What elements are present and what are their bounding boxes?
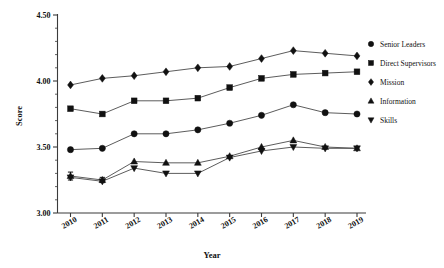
y-axis-title: Score (14, 106, 24, 126)
data-point-marker (99, 74, 105, 82)
y-tick-label: 3.00 (37, 209, 51, 218)
legend-label: Senior Leaders (380, 40, 425, 49)
x-tick-label: 2016 (251, 215, 269, 231)
data-point-marker (163, 68, 169, 76)
chart-figure: 3.003.504.004.50 20102011201220132014201… (0, 0, 444, 268)
data-point-marker (163, 98, 169, 104)
x-tick-label: 2011 (92, 215, 110, 231)
data-point-marker (67, 147, 73, 153)
legend-label: Direct Supervisors (380, 59, 436, 68)
x-axis-title: Year (204, 250, 221, 260)
x-tick-label: 2013 (156, 215, 174, 231)
data-point-marker (354, 111, 360, 117)
line-chart: 3.003.504.004.50 20102011201220132014201… (0, 0, 444, 268)
legend-label: Skills (380, 116, 397, 125)
x-tick-label: 2018 (315, 215, 333, 231)
data-point-marker (68, 81, 74, 89)
data-point-marker (290, 47, 296, 55)
data-point-marker (68, 106, 74, 112)
series-line (71, 140, 358, 180)
legend-marker-circle (368, 41, 373, 46)
data-point-marker (163, 131, 169, 137)
legend-marker-triangle-down (368, 118, 374, 123)
y-axis-tick-labels: 3.003.504.004.50 (37, 11, 51, 218)
data-point-marker (99, 111, 105, 117)
legend-marker-square (369, 61, 374, 66)
legend-label: Mission (380, 78, 404, 87)
data-point-marker (195, 127, 201, 133)
series-lines (71, 51, 358, 182)
x-tick-label: 2015 (219, 215, 237, 231)
data-point-marker (354, 69, 360, 75)
data-point-marker (290, 102, 296, 108)
data-point-marker (195, 95, 201, 101)
data-point-marker (259, 76, 265, 82)
series-line (71, 147, 358, 181)
data-point-marker (195, 64, 201, 72)
data-point-marker (131, 98, 137, 104)
x-tick-label: 2019 (347, 215, 365, 231)
x-tick-label: 2012 (124, 215, 142, 231)
data-point-marker (354, 52, 360, 60)
data-point-marker (194, 171, 201, 177)
data-point-marker (227, 120, 233, 126)
legend-marker-triangle-up (368, 98, 374, 103)
data-point-marker (99, 145, 105, 151)
data-point-marker (131, 158, 138, 164)
y-axis-ticks (53, 15, 58, 213)
x-axis-ticks (71, 213, 358, 217)
x-tick-label: 2017 (283, 215, 301, 231)
data-point-marker (163, 171, 170, 177)
data-point-marker (259, 55, 265, 63)
series-line (71, 105, 358, 150)
x-tick-label: 2014 (187, 215, 205, 231)
legend-label: Information (380, 97, 416, 106)
y-tick-label: 3.50 (37, 143, 51, 152)
series-line (71, 72, 358, 114)
data-point-marker (290, 72, 296, 78)
data-point-marker (227, 85, 233, 91)
data-point-marker (131, 72, 137, 80)
legend-marker-diamond (368, 79, 373, 86)
data-point-marker (290, 137, 297, 143)
data-point-marker (322, 49, 328, 57)
series-line (71, 51, 358, 85)
chart-legend: Senior LeadersDirect SupervisorsMissionI… (368, 40, 436, 125)
data-point-marker (131, 131, 137, 137)
x-axis-tick-labels: 2010201120122013201420152016201720182019 (60, 215, 365, 231)
data-point-marker (258, 112, 264, 118)
data-point-marker (322, 70, 328, 76)
y-tick-label: 4.00 (37, 77, 51, 86)
x-tick-label: 2010 (60, 215, 78, 231)
data-point-marker (322, 110, 328, 116)
y-tick-label: 4.50 (37, 11, 51, 20)
data-point-marker (227, 63, 233, 71)
